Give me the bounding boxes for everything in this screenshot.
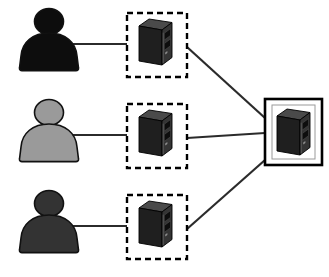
central-server-group[interactable]: [265, 99, 322, 165]
client-1-person-icon[interactable]: [19, 9, 78, 71]
link-server1-central: [187, 47, 265, 118]
client-3-person-icon[interactable]: [19, 191, 78, 253]
edge-server-3-tower-icon: [139, 201, 172, 247]
network-topology-diagram: [0, 0, 329, 277]
edge-server-1-group[interactable]: [127, 13, 187, 77]
edge-server-1-tower-icon: [139, 19, 172, 65]
edge-server-2-group[interactable]: [127, 104, 187, 168]
central-server-tower-icon: [277, 109, 310, 155]
link-server2-central: [187, 133, 265, 138]
client-2-person-icon[interactable]: [19, 100, 78, 162]
diagram-canvas: [0, 0, 329, 277]
edge-server-3-group[interactable]: [127, 195, 187, 259]
edge-server-2-tower-icon: [139, 110, 172, 156]
link-server3-central: [187, 160, 265, 229]
